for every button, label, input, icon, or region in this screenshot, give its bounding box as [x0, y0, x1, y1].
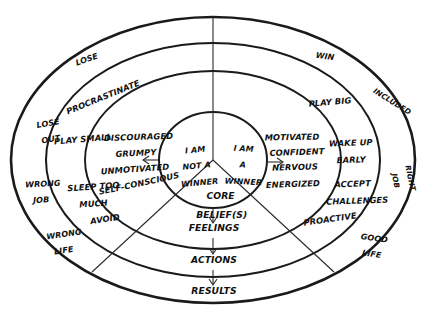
result-wrong-life-line1: WRONG	[46, 228, 82, 242]
action-sleep-line1: SLEEP TOO	[67, 180, 120, 194]
flow-core-line2: BELIEF(S)	[196, 209, 247, 220]
action-wake-line2: EARLY	[337, 155, 366, 166]
action-accept-line2: CHALLENGES	[326, 195, 388, 207]
result-wrong-life-line2: LIFE	[54, 245, 74, 257]
action-sleep-line2: MUCH	[79, 198, 108, 210]
action-wake-line1: WAKE UP	[329, 137, 373, 149]
result-right-job-line2: JOB	[390, 172, 402, 189]
result-lose-out-line2: OUT	[41, 134, 61, 146]
result-negative-lose-out: LOSE OUT	[22, 110, 67, 157]
result-lose-out-line1: LOSE	[36, 117, 60, 130]
result-positive-good-life: GOOD LIFE	[345, 224, 388, 270]
action-positive-accept-challenges: ACCEPT CHALLENGES	[313, 171, 380, 216]
flow-label-feelings: FEELINGS	[180, 223, 248, 232]
result-negative-wrong-life: WRONG LIFE	[33, 221, 80, 267]
result-wrong-job-line1: WRONG	[25, 179, 61, 190]
flow-core-line1: CORE	[206, 190, 234, 201]
core-belief-positive-line2: A	[239, 161, 246, 170]
action-accept-line1: ACCEPT	[334, 179, 371, 190]
diagram-canvas: I AM NOT A WINNER I AM A WINNER CORE BEL…	[0, 0, 427, 319]
result-negative-wrong-job: WRONG JOB	[13, 172, 57, 215]
result-positive-right-job: RIGHT JOB	[380, 152, 424, 195]
flow-arrow-feelings-to-actions	[209, 238, 217, 254]
result-good-life-line2: LIFE	[361, 249, 381, 261]
flow-label-results: RESULTS	[182, 286, 246, 295]
result-right-job-line1: RIGHT	[404, 164, 418, 192]
core-belief-positive-line1: I AM	[233, 144, 254, 154]
core-belief-negative-line1: I AM	[185, 145, 206, 156]
flow-label-actions: ACTIONS	[182, 255, 246, 264]
result-good-life-line1: GOOD	[360, 232, 388, 245]
core-belief-negative-line2: NOT A	[182, 161, 211, 172]
action-positive-wake-up-early: WAKE UP EARLY	[315, 130, 374, 174]
result-wrong-job-line2: JOB	[33, 196, 50, 206]
